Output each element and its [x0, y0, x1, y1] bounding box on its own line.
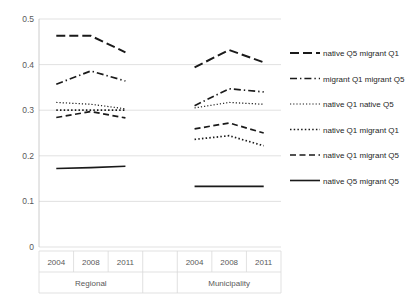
y-axis-tick-label: 0.2	[22, 151, 34, 161]
series-line-native-q5-migrant-q5-regional	[56, 166, 125, 168]
series-line-native-q1-native-q5-regional	[56, 102, 125, 108]
series-line-native-q1-migrant-q5-municipality	[195, 123, 264, 133]
series-line-native-q1-migrant-q1-municipality	[195, 136, 264, 146]
legend-item-label: native Q5 migrant Q5	[323, 177, 400, 186]
x-axis-tick-label: 2004	[186, 258, 204, 267]
chart-container: 00.10.20.30.40.5200420082011200420082011…	[0, 0, 414, 298]
y-axis-tick-label: 0.1	[22, 196, 34, 206]
x-axis-group-label: Regional	[75, 279, 107, 288]
x-axis-tick-label: 2011	[117, 258, 135, 267]
x-axis-tick-label: 2011	[255, 258, 273, 267]
line-chart: 00.10.20.30.40.5200420082011200420082011…	[0, 0, 414, 298]
series-line-native-q1-migrant-q5-regional	[56, 112, 125, 118]
series-group	[56, 36, 263, 186]
x-axis: 200420082011200420082011RegionalMunicipa…	[39, 251, 281, 293]
legend-item-label: native Q1 migrant Q5	[323, 151, 400, 160]
series-line-migrant-q1-migrant-q5-municipality	[195, 89, 264, 106]
x-axis-tick-label: 2008	[82, 258, 100, 267]
x-axis-group-label: Municipality	[208, 279, 250, 288]
y-axis-tick-label: 0.5	[22, 14, 34, 24]
legend-item-label: native Q1 migrant Q1	[323, 126, 400, 135]
series-line-migrant-q1-migrant-q5-regional	[56, 71, 125, 84]
gridlines: 00.10.20.30.40.5	[22, 14, 281, 252]
legend-item-label: native Q5 migrant Q1	[323, 49, 400, 58]
legend-item-label: migrant Q1 migrant Q5	[323, 75, 405, 84]
series-line-native-q1-native-q5-municipality	[195, 102, 264, 107]
y-axis-tick-label: 0.3	[22, 105, 34, 115]
series-line-native-q5-migrant-q1-regional	[56, 36, 125, 52]
y-axis-tick-label: 0	[29, 242, 34, 252]
x-axis-tick-label: 2004	[47, 258, 65, 267]
x-axis-tick-label: 2008	[220, 258, 238, 267]
legend-item-label: native Q1 native Q5	[323, 100, 394, 109]
y-axis-tick-label: 0.4	[22, 60, 34, 70]
legend: native Q5 migrant Q1migrant Q1 migrant Q…	[290, 49, 405, 186]
